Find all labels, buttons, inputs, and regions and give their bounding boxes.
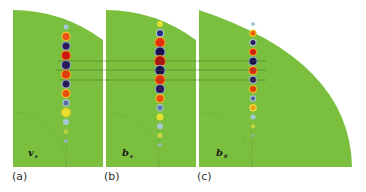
mode-dot xyxy=(63,119,69,125)
mode-dot xyxy=(62,52,70,60)
figure: vs bs bθ xyxy=(0,0,366,192)
mode-dot xyxy=(251,124,255,128)
mode-dot xyxy=(63,43,70,50)
panel-c-caption: (c) xyxy=(197,170,212,183)
mode-dot xyxy=(156,38,165,47)
mode-dot xyxy=(251,115,256,120)
panel-a-caption: (a) xyxy=(12,170,27,183)
mode-dot xyxy=(64,139,68,143)
mode-dot xyxy=(64,101,69,106)
mode-dot xyxy=(250,86,256,92)
mode-dot xyxy=(251,96,255,100)
mode-dot xyxy=(250,67,257,74)
mode-dot xyxy=(64,25,69,30)
mode-dot xyxy=(251,22,255,26)
panel-b: bs xyxy=(106,10,196,167)
mode-dot xyxy=(251,40,256,45)
mode-dot xyxy=(157,21,163,27)
panel-c-domain xyxy=(199,10,352,167)
panel-a-domain xyxy=(13,10,103,167)
mode-dot xyxy=(250,49,256,55)
panel-b-domain xyxy=(106,10,196,167)
mode-dot xyxy=(158,105,163,110)
panel-b-caption: (b) xyxy=(104,170,120,183)
mode-dot xyxy=(157,114,164,121)
mode-dot xyxy=(157,95,164,102)
panel-c: bθ xyxy=(199,10,352,167)
mode-dot xyxy=(157,123,163,129)
mode-dot xyxy=(251,105,256,110)
mode-dot xyxy=(158,133,163,138)
mode-dot xyxy=(63,81,70,88)
panel-a: vs xyxy=(13,10,103,167)
mode-dot xyxy=(157,30,163,36)
mode-dot xyxy=(252,134,255,137)
mode-dot xyxy=(62,71,70,79)
mode-dot xyxy=(62,61,70,69)
mode-dot xyxy=(64,129,69,134)
mode-dot xyxy=(63,33,70,40)
mode-dot xyxy=(156,85,164,93)
mode-dot xyxy=(156,66,165,75)
mode-dot xyxy=(63,109,70,116)
mode-dot xyxy=(158,143,162,147)
mode-dot xyxy=(63,90,70,97)
mode-dot xyxy=(251,31,256,36)
